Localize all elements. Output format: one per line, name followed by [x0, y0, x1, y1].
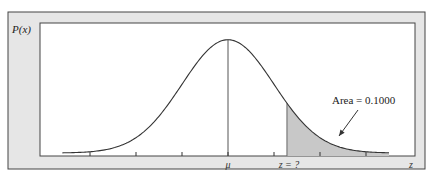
x-axis-label: z [408, 159, 413, 170]
normal-distribution-chart: μz = ? P(x) z Area = 0.1000 [0, 0, 434, 187]
area-annotation: Area = 0.1000 [332, 94, 396, 106]
x-tick-label: z = ? [278, 159, 300, 170]
x-tick-label: μ [224, 159, 230, 170]
y-axis-label: P(x) [11, 23, 31, 36]
